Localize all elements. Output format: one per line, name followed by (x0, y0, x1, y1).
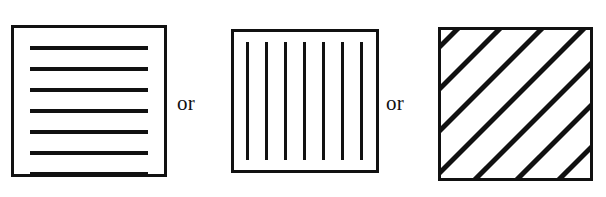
horizontal-stripes-panel (11, 25, 167, 177)
vertical-line-4 (303, 42, 306, 160)
figure-canvas: or or (0, 0, 606, 197)
vertical-line-7 (360, 42, 363, 160)
vertical-line-2 (265, 42, 268, 160)
horizontal-line-2 (30, 67, 148, 71)
horizontal-line-1 (30, 46, 148, 50)
connector-or-first: or (177, 93, 195, 114)
vertical-line-1 (246, 42, 249, 160)
vertical-line-pattern (234, 32, 376, 170)
horizontal-line-5 (30, 130, 148, 134)
horizontal-line-pattern (14, 28, 164, 174)
diagonal-line-group (438, 27, 593, 181)
diagonal-stripes-panel (438, 27, 593, 181)
horizontal-line-3 (30, 88, 148, 92)
connector-or-second: or (386, 93, 404, 114)
vertical-line-6 (341, 42, 344, 160)
vertical-stripes-panel (231, 29, 379, 173)
vertical-line-5 (322, 42, 325, 160)
horizontal-line-4 (30, 109, 148, 113)
diagonal-line-3 (438, 27, 593, 181)
diagonal-line-pattern (441, 30, 590, 178)
vertical-line-3 (284, 42, 287, 160)
horizontal-line-6 (30, 151, 148, 155)
horizontal-line-7 (30, 172, 148, 176)
